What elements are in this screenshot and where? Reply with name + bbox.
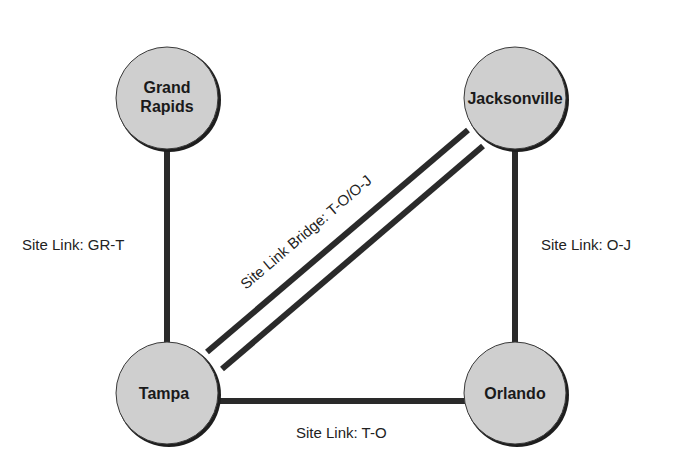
link-label-t-o: Site Link: T-O (296, 424, 387, 441)
bridge-label: Site Link Bridge: T-O/O-J (237, 171, 375, 292)
link-label-o-j: Site Link: O-J (541, 236, 631, 253)
node-jacksonville: Jacksonville (464, 47, 569, 152)
node-label-line2: Rapids (140, 98, 193, 115)
node-label: Jacksonville (467, 90, 562, 107)
node-grand-rapids: Grand Rapids (116, 47, 221, 152)
site-link-diagram: Grand Rapids Jacksonville Tampa Orlando … (0, 0, 680, 474)
bridge-line-upper (207, 130, 468, 352)
node-label-line1: Grand (143, 79, 190, 96)
node-tampa: Tampa (116, 342, 221, 447)
link-label-gr-t: Site Link: GR-T (22, 236, 125, 253)
node-label: Tampa (139, 385, 189, 402)
node-orlando: Orlando (464, 342, 569, 447)
node-label: Orlando (484, 385, 546, 402)
